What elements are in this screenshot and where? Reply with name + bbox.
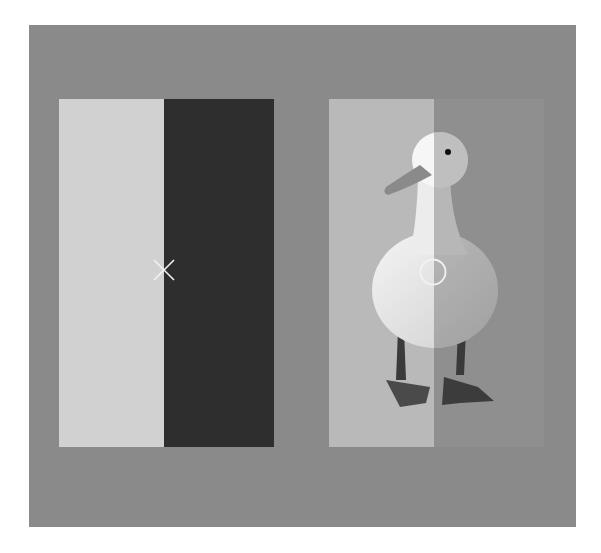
left-panel-dark-half xyxy=(164,99,274,447)
left-panel-light-half xyxy=(59,99,164,447)
fixation-circle-icon xyxy=(419,258,447,286)
fixation-cross-icon xyxy=(152,258,176,282)
